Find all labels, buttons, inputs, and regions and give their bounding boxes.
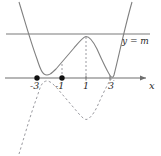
figure-canvas: -3 -1 1 3 x y = m: [0, 0, 161, 156]
tick-label-minus-3: -3: [30, 80, 39, 91]
solid-curve: [19, 2, 132, 77]
x-axis-label: x: [149, 80, 155, 91]
tick-label-minus-1: -1: [55, 80, 64, 91]
tick-label-3: 3: [108, 80, 114, 91]
line-label-y-equals-m: y = m: [122, 36, 149, 46]
tick-label-1: 1: [83, 80, 89, 91]
x-axis-arrow-icon: [140, 76, 146, 81]
x-axis: [5, 76, 146, 81]
graph-svg: [0, 0, 161, 156]
